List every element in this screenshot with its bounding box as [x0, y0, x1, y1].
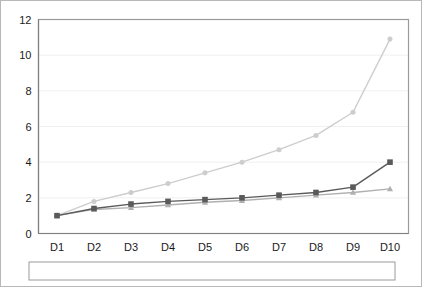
- chart-legend: [29, 262, 395, 280]
- data-point-marker: [128, 201, 134, 207]
- y-axis-tick-label: 12: [19, 14, 31, 26]
- series-line: [57, 162, 390, 216]
- x-axis-tick-label: D4: [161, 241, 175, 253]
- x-axis-tick-label: D3: [124, 241, 138, 253]
- x-axis-tick-label: D2: [87, 241, 101, 253]
- data-point-marker: [350, 110, 355, 115]
- data-point-marker: [239, 195, 245, 201]
- data-point-marker: [276, 147, 281, 152]
- y-axis-tick-label: 8: [25, 85, 31, 97]
- data-point-marker: [387, 159, 393, 165]
- y-axis-tick-labels: 024681012: [19, 14, 31, 240]
- y-axis-tick-label: 2: [25, 192, 31, 204]
- data-point-marker: [313, 133, 318, 138]
- data-point-marker: [128, 190, 133, 195]
- line-chart: 024681012 D1D2D3D4D5D6D7D8D9D10: [0, 0, 422, 287]
- x-axis-tick-label: D7: [272, 241, 286, 253]
- data-point-marker: [313, 190, 319, 196]
- x-axis-tick-label: D9: [346, 241, 360, 253]
- x-axis-tick-label: D5: [198, 241, 212, 253]
- data-point-marker: [202, 197, 208, 203]
- gridlines: [39, 20, 409, 198]
- data-point-marker: [239, 160, 244, 165]
- x-axis-tick-labels: D1D2D3D4D5D6D7D8D9D10: [50, 241, 400, 253]
- data-point-marker: [91, 206, 97, 212]
- x-axis-tick-label: D8: [309, 241, 323, 253]
- data-point-marker: [165, 181, 170, 186]
- y-axis-tick-label: 4: [25, 156, 31, 168]
- y-axis-tick-label: 10: [19, 49, 31, 61]
- legend-box: [29, 262, 395, 280]
- data-point-marker: [202, 170, 207, 175]
- y-axis-tick-label: 6: [25, 121, 31, 133]
- data-point-marker: [276, 192, 282, 198]
- chart-canvas: 024681012 D1D2D3D4D5D6D7D8D9D10: [1, 1, 422, 287]
- x-axis-tick-label: D10: [380, 241, 400, 253]
- data-series: [54, 186, 393, 218]
- x-axis-tick-label: D1: [50, 241, 64, 253]
- data-point-marker: [165, 199, 171, 205]
- series-line: [57, 189, 390, 216]
- data-point-marker: [91, 199, 96, 204]
- data-series: [54, 37, 392, 219]
- data-point-marker: [54, 213, 60, 219]
- y-axis-tick-label: 0: [25, 228, 31, 240]
- data-point-marker: [387, 37, 392, 42]
- x-axis-tick-label: D6: [235, 241, 249, 253]
- data-point-marker: [350, 184, 356, 190]
